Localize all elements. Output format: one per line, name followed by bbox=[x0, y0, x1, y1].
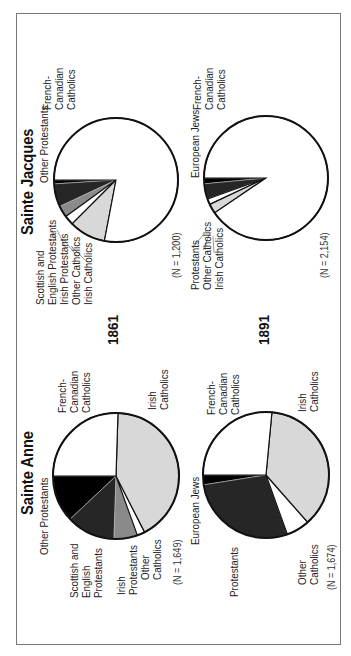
label-sj1861-french-canadian: French- Canadian Catholics bbox=[41, 68, 77, 110]
n-label-sj1891: (N = 2,154) bbox=[318, 233, 330, 278]
label-sa1861-other-protestants: Other Protestants bbox=[38, 477, 50, 555]
n-label-sa1891: (N = 1,674) bbox=[325, 545, 337, 590]
label-sj1861-other-protestants: Other Protestants bbox=[38, 105, 50, 183]
n-label-sj1861: (N = 1,200) bbox=[170, 233, 182, 278]
title-sainte-anne: Sainte Anne bbox=[18, 431, 38, 515]
label-sa1891-french-canadian: French- Canadian Catholics bbox=[205, 373, 241, 415]
label-sa1891-other-catholics: Other Catholics bbox=[296, 544, 320, 585]
label-sa1861-irish-protestants: Irish Protestants bbox=[115, 545, 139, 595]
label-sa1861-french-canadian: French- Canadian Catholics bbox=[56, 371, 92, 413]
label-sj1891-european-jews: European Jews bbox=[189, 110, 201, 178]
label-sa1861-scottish-english: Scottish and English Protestants bbox=[68, 544, 104, 598]
year-label-1891: 1891 bbox=[255, 315, 272, 345]
label-sa1891-european-jews: European Jews bbox=[189, 477, 201, 545]
n-label-sa1861: (N = 1,649) bbox=[171, 540, 183, 585]
label-sj1891-minority-stack: Protestants Other Catholics Irish Cathol… bbox=[189, 222, 225, 290]
label-sj1861-minority-stack: Scottish and English Protestants Irish P… bbox=[34, 220, 94, 305]
year-label-1861: 1861 bbox=[104, 315, 121, 345]
label-sj1891-french-canadian: French- Canadian Catholics bbox=[191, 68, 227, 110]
label-sa1861-irish-catholics: Irish Catholics bbox=[146, 369, 170, 410]
label-sa1861-other-catholics: Other Catholics bbox=[139, 539, 163, 580]
label-sa1891-irish-catholics: Irish Catholics bbox=[296, 371, 320, 412]
figure-canvas: Sainte Anne Sainte Jacques 1861 1891 Fre… bbox=[0, 0, 351, 656]
label-sa1891-protestants: Protestants bbox=[228, 547, 240, 597]
